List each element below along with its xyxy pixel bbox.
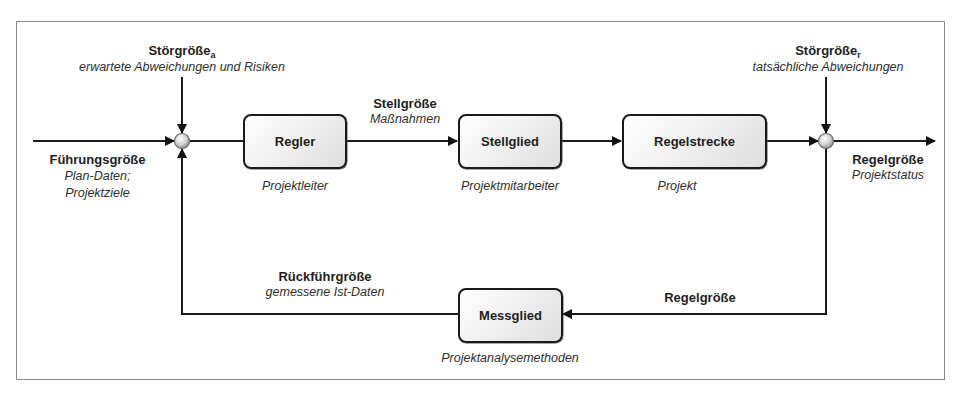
- block-regelstrecke-label: Regelstrecke: [654, 134, 735, 149]
- block-regelstrecke: Regelstrecke: [622, 114, 767, 169]
- caption-stoergroesse-r: tatsächliche Abweichungen: [738, 59, 918, 76]
- label-regelgroesse-feedback: Regelgröße: [650, 289, 750, 306]
- caption-fuehrungsgroesse-line1: Plan-Daten;: [30, 168, 165, 185]
- summing-junction-right: [819, 134, 834, 149]
- caption-messglied: Projektanalysemethoden: [410, 350, 610, 367]
- block-regler-label: Regler: [275, 134, 315, 149]
- label-regelgroesse-output: Regelgröße: [838, 151, 938, 168]
- label-stellgroesse: Stellgröße: [355, 95, 455, 112]
- label-stoergroesse-a-title: Störgröße: [148, 43, 210, 58]
- caption-stellgroesse: Maßnahmen: [355, 111, 455, 128]
- caption-regler: Projektleiter: [243, 178, 347, 195]
- caption-regelstrecke: Projekt: [622, 178, 732, 195]
- caption-rueckfuehrgroesse: gemessene Ist-Daten: [250, 284, 400, 301]
- label-fuehrungsgroesse: Führungsgröße: [30, 151, 165, 168]
- block-messglied: Messglied: [458, 288, 563, 343]
- caption-stellglied: Projektmitarbeiter: [430, 178, 590, 195]
- caption-regelgroesse-output: Projektstatus: [838, 167, 938, 184]
- summing-junction-left: [175, 134, 190, 149]
- caption-fuehrungsgroesse-line2: Projektziele: [30, 185, 165, 202]
- label-rueckfuehrgroesse: Rückführgröße: [250, 268, 400, 285]
- block-stellglied: Stellglied: [458, 114, 562, 169]
- block-messglied-label: Messglied: [479, 308, 542, 323]
- caption-stoergroesse-a: erwartete Abweichungen und Risiken: [42, 59, 322, 76]
- block-stellglied-label: Stellglied: [481, 134, 539, 149]
- block-regler: Regler: [243, 114, 347, 169]
- label-stoergroesse-r-title: Störgröße: [795, 43, 857, 58]
